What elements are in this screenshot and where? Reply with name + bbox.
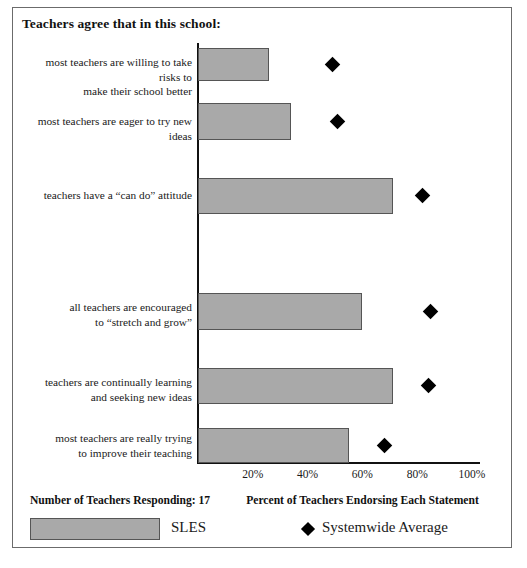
category-label-1-line2: make their school better bbox=[22, 84, 192, 99]
bar-row-4 bbox=[198, 293, 362, 330]
bar-row-3 bbox=[198, 178, 393, 214]
category-label-5-line2: and seeking new ideas bbox=[22, 390, 192, 405]
marker-row-6 bbox=[377, 438, 393, 454]
category-label-6-line1: most teachers are really trying bbox=[22, 431, 192, 446]
category-label-2-line1: most teachers are eager to try new ideas bbox=[22, 114, 192, 143]
marker-row-1 bbox=[324, 57, 340, 73]
legend-marker-label: Systemwide Average bbox=[322, 519, 448, 536]
bar-row-1 bbox=[198, 48, 269, 81]
respondents-caption: Number of Teachers Responding: 17 bbox=[30, 494, 210, 507]
bar-row-5 bbox=[198, 368, 393, 404]
bar-row-2 bbox=[198, 103, 291, 140]
category-label-3-line1: teachers have a “can do” attitude bbox=[22, 188, 192, 203]
x-axis-caption: Percent of Teachers Endorsing Each State… bbox=[230, 494, 495, 507]
category-label-6: most teachers are really trying to impro… bbox=[22, 431, 192, 460]
legend-bar-swatch bbox=[30, 518, 160, 540]
category-label-5: teachers are continually learning and se… bbox=[22, 375, 192, 404]
chart-page: Teachers agree that in this school: most… bbox=[0, 0, 527, 568]
x-tick-label-5: 100% bbox=[442, 468, 502, 480]
marker-row-2 bbox=[330, 114, 346, 130]
category-label-4: all teachers are encouraged to “stretch … bbox=[22, 300, 192, 329]
marker-row-4 bbox=[423, 304, 439, 320]
category-label-1-line1: most teachers are willing to take risks … bbox=[22, 55, 192, 84]
x-tick-label-1: 20% bbox=[223, 468, 283, 480]
marker-row-3 bbox=[415, 188, 431, 204]
category-label-4-line1: all teachers are encouraged bbox=[22, 300, 192, 315]
category-label-5-line1: teachers are continually learning bbox=[22, 375, 192, 390]
x-tick-label-4: 80% bbox=[387, 468, 447, 480]
category-label-2: most teachers are eager to try new ideas bbox=[22, 114, 192, 143]
bar-row-6 bbox=[198, 428, 349, 463]
x-tick-label-2: 40% bbox=[278, 468, 338, 480]
category-label-1: most teachers are willing to take risks … bbox=[22, 55, 192, 99]
plot-area: most teachers are willing to take risks … bbox=[0, 0, 527, 568]
category-label-4-line2: to “stretch and grow” bbox=[22, 315, 192, 330]
legend-bar-label: SLES bbox=[171, 519, 206, 536]
category-label-3: teachers have a “can do” attitude bbox=[22, 188, 192, 203]
category-label-6-line2: to improve their teaching bbox=[22, 446, 192, 461]
x-tick-label-3: 60% bbox=[332, 468, 392, 480]
marker-row-5 bbox=[420, 378, 436, 394]
